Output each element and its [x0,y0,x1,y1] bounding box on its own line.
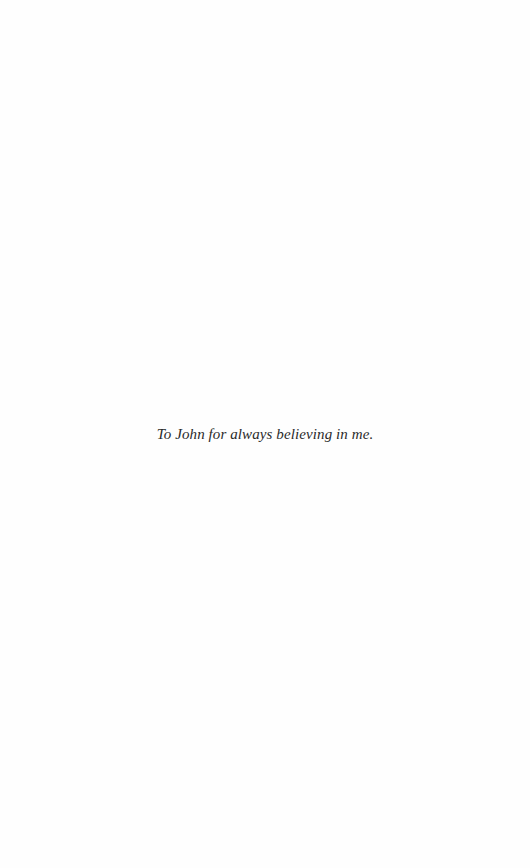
book-page: To John for always believing in me. [0,0,530,868]
dedication-text: To John for always believing in me. [0,426,530,443]
